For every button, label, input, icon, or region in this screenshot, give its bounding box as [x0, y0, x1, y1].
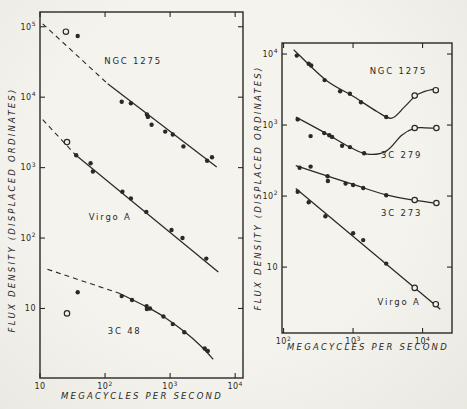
data-point-filled: [326, 179, 330, 183]
data-point-filled: [361, 238, 365, 242]
data-point-filled: [120, 100, 124, 104]
data-point-filled: [330, 135, 334, 139]
data-point-filled: [171, 322, 175, 326]
data-point-filled: [130, 298, 134, 302]
right-x-axis-label: MEGACYCLES PER SECOND: [268, 341, 467, 353]
data-point-filled: [88, 161, 92, 165]
series-label: Virgo A: [89, 212, 132, 222]
data-point-filled: [308, 164, 312, 168]
data-point-filled: [76, 34, 80, 38]
data-point-filled: [120, 294, 124, 298]
data-point-filled: [343, 181, 347, 185]
spectrum-line: [296, 117, 437, 154]
figure-canvas: 1010210310410102103104105NGC 1275Virgo A…: [0, 0, 467, 409]
data-point-open: [434, 125, 439, 130]
data-point-filled: [322, 131, 326, 135]
data-point-filled: [91, 169, 95, 173]
left-y-tick-label: 105: [20, 20, 36, 32]
left-y-tick-label: 10: [25, 304, 36, 313]
data-point-open: [64, 139, 69, 144]
data-point-filled: [348, 145, 352, 149]
left-y-axis-label: FLUX DENSITY (DISPLACED ORDINATES): [6, 80, 18, 340]
data-point-filled: [182, 330, 186, 334]
data-point-filled: [307, 200, 311, 204]
data-point-filled: [129, 196, 133, 200]
data-point-filled: [206, 349, 210, 353]
series-label: 3C 279: [381, 150, 422, 160]
data-point-filled: [351, 183, 355, 187]
left-x-axis-label: MEGACYCLES PER SECOND: [42, 390, 242, 402]
spectrum-dashed-line: [43, 24, 108, 84]
data-point-filled: [163, 129, 167, 133]
right-y-tick-label: 104: [262, 47, 278, 59]
series-label: NGC 1275: [370, 66, 428, 76]
data-point-filled: [351, 231, 355, 235]
spectrum-line: [296, 189, 441, 310]
series-label: Virgo A: [378, 297, 421, 307]
data-point-filled: [384, 261, 388, 265]
spectrum-line: [294, 50, 437, 119]
data-point-filled: [340, 144, 344, 148]
data-point-filled: [129, 101, 133, 105]
left-panel-frame: [40, 12, 243, 378]
data-point-open: [64, 311, 69, 316]
left-y-tick-label: 104: [20, 90, 36, 102]
data-point-filled: [149, 123, 153, 127]
data-point-filled: [338, 89, 342, 93]
data-point-filled: [180, 236, 184, 240]
data-point-filled: [323, 214, 327, 218]
data-point-filled: [76, 290, 80, 294]
data-point-filled: [296, 117, 300, 121]
data-point-filled: [161, 314, 165, 318]
data-point-filled: [295, 53, 299, 57]
right-panel-frame: [282, 43, 452, 333]
right-panel: 10210310410102103104NGC 12753C 2793C 273…: [262, 43, 452, 346]
data-point-open: [412, 93, 417, 98]
data-point-open: [63, 29, 68, 34]
data-point-filled: [384, 115, 388, 119]
data-point-open: [434, 200, 439, 205]
left-panel: 1010210310410102103104105NGC 1275Virgo A…: [20, 12, 243, 391]
data-point-filled: [362, 151, 366, 155]
data-point-filled: [144, 210, 148, 214]
data-point-filled: [296, 190, 300, 194]
data-point-filled: [171, 132, 175, 136]
data-point-filled: [181, 144, 185, 148]
data-point-filled: [146, 115, 150, 119]
right-y-tick-label: 10: [267, 263, 278, 272]
series-ngc-1275-right: NGC 1275: [294, 50, 439, 120]
right-y-tick-label: 102: [262, 189, 278, 201]
data-point-filled: [361, 186, 365, 190]
spectrum-dashed-line: [43, 120, 76, 156]
data-point-filled: [384, 193, 388, 197]
data-point-filled: [309, 63, 313, 67]
right-y-tick-label: 103: [262, 118, 278, 129]
data-point-open: [433, 88, 438, 93]
series-label: 3C 48: [108, 326, 142, 336]
data-point-filled: [348, 92, 352, 96]
data-point-filled: [297, 166, 301, 170]
data-point-filled: [325, 174, 329, 178]
data-point-filled: [169, 228, 173, 232]
data-point-filled: [148, 306, 152, 310]
series-ngc-1275-left: NGC 1275: [43, 24, 217, 167]
data-point-filled: [204, 256, 208, 260]
data-point-open: [412, 125, 417, 130]
data-point-filled: [308, 134, 312, 138]
series-label: 3C 273: [381, 208, 422, 218]
series-virgo-a-left: Virgo A: [43, 120, 219, 272]
data-point-filled: [210, 155, 214, 159]
series-3c-273-right: 3C 273: [296, 164, 439, 218]
data-point-filled: [359, 100, 363, 104]
data-point-open: [412, 285, 417, 290]
right-y-axis-label: FLUX DENSITY (DISPLACED ORDINATES): [252, 58, 264, 318]
data-point-filled: [205, 159, 209, 163]
spectrum-line: [108, 84, 217, 167]
left-y-tick-label: 102: [20, 231, 36, 243]
data-point-filled: [74, 153, 78, 157]
data-point-open: [412, 197, 417, 202]
series-virgo-a-right: Virgo A: [296, 189, 441, 310]
series-3c-48-left: 3C 48: [47, 269, 213, 359]
series-label: NGC 1275: [104, 56, 162, 66]
spectrum-dashed-line: [47, 269, 119, 293]
